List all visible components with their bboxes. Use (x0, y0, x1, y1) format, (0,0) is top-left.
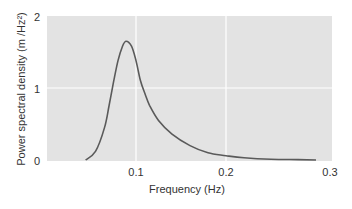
psd-chart: 2 1 0 0.1 0.2 0.3 Frequency (Hz) Power s… (0, 0, 352, 209)
y-tick-0: 0 (34, 155, 40, 167)
x-tick-0.2: 0.2 (218, 166, 233, 178)
y-axis-label: Power spectral density (m /Hz²) (15, 12, 27, 165)
x-axis-label: Frequency (Hz) (149, 183, 225, 195)
y-tick-1: 1 (34, 83, 40, 95)
y-tick-2: 2 (34, 11, 40, 23)
x-tick-0.1: 0.1 (128, 166, 143, 178)
x-tick-0.3: 0.3 (322, 166, 337, 178)
